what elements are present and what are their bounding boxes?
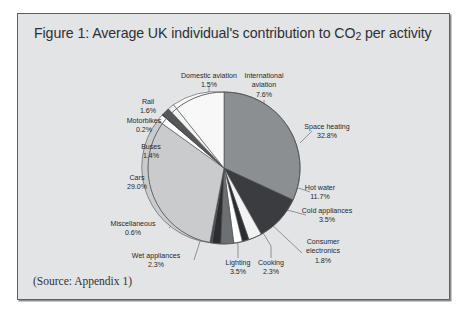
label-cold-appliances: Cold appliances 3.5% xyxy=(286,207,368,226)
label-wet-appliances-value: 2.3% xyxy=(119,261,193,270)
label-rail-text: Rail xyxy=(142,98,154,106)
label-consumer-electronics-text2: electronics xyxy=(286,247,360,256)
label-wet-appliances: Wet appliances 2.3% xyxy=(119,252,193,271)
label-miscellaneous-value: 0.6% xyxy=(98,229,168,238)
label-miscellaneous-text: Miscellaneous xyxy=(111,220,156,228)
figure-title-subscript: 2 xyxy=(355,30,361,42)
label-space-heating: Space heating 32.8% xyxy=(289,123,365,142)
figure-title-suffix: per activity xyxy=(361,25,431,41)
label-buses: Buses 1.4% xyxy=(126,143,176,162)
label-buses-text: Buses xyxy=(141,143,161,151)
label-hot-water: Hot water 11.7% xyxy=(290,184,350,203)
label-cars-value: 29.0% xyxy=(110,183,164,192)
figure-title-prefix: Figure 1: Average UK individual's contri… xyxy=(34,25,355,41)
label-consumer-electronics: Consumer electronics 1.8% xyxy=(286,238,360,266)
label-rail-value: 1.6% xyxy=(123,107,173,116)
label-wet-appliances-text: Wet appliances xyxy=(132,252,180,260)
label-international-aviation-text: International xyxy=(244,72,283,80)
label-domestic-aviation-text: Domestic aviation xyxy=(181,72,237,80)
label-miscellaneous: Miscellaneous 0.6% xyxy=(98,220,168,239)
label-consumer-electronics-value: 1.8% xyxy=(286,257,360,266)
label-space-heating-text: Space heating xyxy=(304,123,349,131)
label-cars-text: Cars xyxy=(130,174,145,182)
label-hot-water-text: Hot water xyxy=(305,184,335,192)
label-motorbikes-text: Motorbikes xyxy=(127,117,162,125)
label-rail: Rail 1.6% xyxy=(123,98,173,117)
label-international-aviation: International aviation 7.6% xyxy=(230,72,298,100)
label-international-aviation-text2: aviation xyxy=(230,81,298,90)
label-motorbikes-value: 0.2% xyxy=(110,126,178,135)
label-motorbikes: Motorbikes 0.2% xyxy=(110,117,178,136)
label-cars: Cars 29.0% xyxy=(110,174,164,193)
label-hot-water-value: 11.7% xyxy=(290,193,350,202)
label-cooking-value: 2.3% xyxy=(247,268,295,277)
pie-chart: Domestic aviation 1.5% International avi… xyxy=(18,48,450,268)
label-buses-value: 1.4% xyxy=(126,152,176,161)
label-cold-appliances-text: Cold appliances xyxy=(302,207,352,215)
label-international-aviation-value: 7.6% xyxy=(230,91,298,100)
label-space-heating-value: 32.8% xyxy=(289,132,365,141)
source-note: (Source: Appendix 1) xyxy=(33,275,132,287)
figure-title: Figure 1: Average UK individual's contri… xyxy=(34,25,432,41)
label-cold-appliances-value: 3.5% xyxy=(286,216,368,225)
label-cooking-text: Cooking xyxy=(258,259,284,267)
figure-panel: Figure 1: Average UK individual's contri… xyxy=(17,13,450,300)
label-consumer-electronics-text: Consumer xyxy=(307,238,340,246)
